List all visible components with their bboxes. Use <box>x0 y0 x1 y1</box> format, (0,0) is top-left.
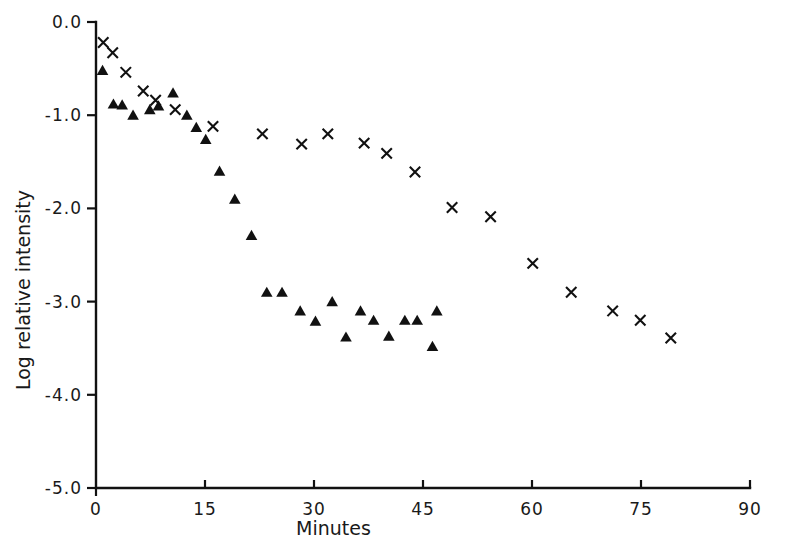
data-point-triangle <box>246 230 258 240</box>
scatter-plot: 0153045607590 0.0-1.0-2.0-3.0-4.0-5.0 Mi… <box>0 0 785 542</box>
data-point-triangle <box>355 305 367 315</box>
data-point-cross <box>359 138 369 148</box>
data-point-triangle <box>167 87 179 97</box>
data-series-markers <box>97 37 676 351</box>
data-point-triangle <box>261 287 273 297</box>
data-point-cross <box>381 148 391 158</box>
data-point-triangle <box>383 330 395 340</box>
data-point-triangle <box>108 98 120 108</box>
data-point-triangle <box>97 65 109 75</box>
data-point-triangle <box>214 166 226 176</box>
data-point-triangle <box>229 193 241 203</box>
data-point-cross <box>296 139 306 149</box>
data-point-triangle <box>190 122 202 132</box>
data-point-triangle <box>294 305 306 315</box>
data-point-cross <box>257 129 267 139</box>
y-axis-tick-labels: 0.0-1.0-2.0-3.0-4.0-5.0 <box>45 12 82 498</box>
axes <box>96 22 750 488</box>
data-point-triangle <box>200 134 212 144</box>
y-tick-label: -1.0 <box>45 105 82 125</box>
data-point-cross <box>98 37 108 47</box>
x-axis-label: Minutes <box>296 517 371 539</box>
y-tick-label: -2.0 <box>45 198 82 218</box>
data-point-cross <box>108 48 118 58</box>
data-point-cross <box>528 258 538 268</box>
axis-spine <box>96 22 750 488</box>
data-point-cross <box>566 287 576 297</box>
series-triangle-series <box>97 65 443 351</box>
data-point-triangle <box>310 316 322 326</box>
data-point-cross <box>485 212 495 222</box>
x-tick-label: 45 <box>411 499 435 519</box>
data-point-cross <box>121 67 131 77</box>
x-tick-label: 60 <box>520 499 544 519</box>
data-point-cross <box>447 202 457 212</box>
y-tick-label: -5.0 <box>45 478 82 498</box>
data-point-triangle <box>127 110 139 120</box>
data-point-triangle <box>116 99 128 109</box>
y-tick-label: -3.0 <box>45 292 82 312</box>
data-point-triangle <box>368 315 380 325</box>
data-point-triangle <box>399 315 411 325</box>
data-point-triangle <box>427 341 439 351</box>
data-point-cross <box>635 315 645 325</box>
data-point-triangle <box>326 296 338 306</box>
data-point-triangle <box>276 287 288 297</box>
y-tick-label: -4.0 <box>45 385 82 405</box>
data-point-cross <box>208 121 218 131</box>
data-point-cross <box>607 306 617 316</box>
x-tick-label: 0 <box>90 499 102 519</box>
x-tick-label: 30 <box>302 499 326 519</box>
y-axis-ticks <box>87 22 96 488</box>
data-point-cross <box>323 129 333 139</box>
x-axis-tick-labels: 0153045607590 <box>90 499 762 519</box>
data-point-cross <box>666 333 676 343</box>
series-cross-series <box>98 37 676 343</box>
data-point-cross <box>410 167 420 177</box>
data-point-triangle <box>411 315 423 325</box>
data-point-triangle <box>181 110 193 120</box>
x-tick-label: 75 <box>629 499 653 519</box>
data-point-triangle <box>340 331 352 341</box>
chart-figure: 0153045607590 0.0-1.0-2.0-3.0-4.0-5.0 Mi… <box>0 0 785 542</box>
data-point-cross <box>170 104 180 114</box>
data-point-cross <box>138 86 148 96</box>
y-tick-label: 0.0 <box>52 12 82 32</box>
x-tick-label: 90 <box>738 499 762 519</box>
y-axis-label: Log relative intensity <box>12 190 34 390</box>
data-point-triangle <box>431 305 443 315</box>
x-tick-label: 15 <box>193 499 217 519</box>
